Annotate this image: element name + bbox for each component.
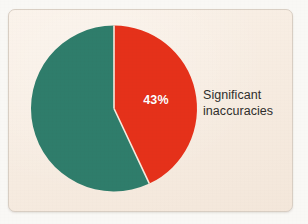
pie-legend-label: Significant inaccuracies [203,88,301,119]
pie-slice-percentage-label: 43% [136,93,176,107]
figure-root: 43% Significant inaccuracies [0,0,308,224]
legend-label-line-2: inaccuracies [203,104,301,120]
legend-label-line-1: Significant [203,88,301,104]
